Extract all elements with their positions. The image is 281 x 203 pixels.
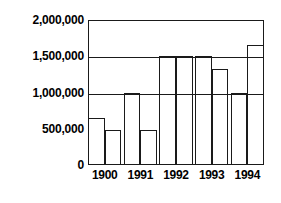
y-axis-tick-label: 2,000,000 bbox=[2, 14, 84, 26]
y-axis-tick-labels: 2,000,000 1,500,000 1,000,000 500,000 0 bbox=[0, 0, 84, 203]
bar-1993-series-1 bbox=[195, 56, 212, 165]
y-axis-tick-label: 500,000 bbox=[2, 123, 84, 135]
bar-1991-series-1 bbox=[124, 93, 141, 166]
bar-1993-series-2 bbox=[212, 69, 229, 165]
bar-chart: 2,000,000 1,500,000 1,000,000 500,000 0 … bbox=[0, 0, 281, 203]
bar-1900-series-1 bbox=[88, 118, 105, 165]
bar-1994-series-1 bbox=[231, 93, 248, 166]
bar-1992-series-1 bbox=[159, 56, 176, 165]
bar-1994-series-2 bbox=[247, 45, 264, 165]
y-axis-tick-label: 1,000,000 bbox=[2, 87, 84, 99]
bars-layer bbox=[88, 20, 264, 165]
y-axis-tick-label: 0 bbox=[2, 159, 84, 171]
x-axis-tick-labels: 1900 1991 1992 1993 1994 bbox=[88, 168, 264, 190]
bar-1992-series-2 bbox=[176, 56, 193, 165]
bar-1900-series-2 bbox=[105, 130, 122, 165]
y-axis-tick-label: 1,500,000 bbox=[2, 50, 84, 62]
x-axis-tick-label: 1994 bbox=[225, 168, 270, 182]
bar-1991-series-2 bbox=[140, 130, 157, 165]
